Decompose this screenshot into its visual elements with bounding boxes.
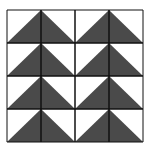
quilt-diagram bbox=[0, 0, 153, 150]
